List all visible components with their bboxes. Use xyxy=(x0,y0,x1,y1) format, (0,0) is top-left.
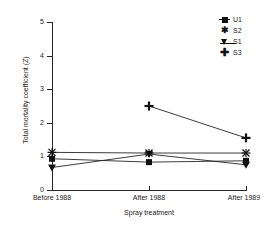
data-point-s3-1 xyxy=(145,102,154,111)
data-point-s3-2 xyxy=(242,133,251,142)
legend-label-s1: S1 xyxy=(233,38,242,46)
chart-figure: 5 4 3 2 1 0 Before 1988 After 1988 After… xyxy=(0,0,276,226)
legend-item-s3[interactable]: ✚ S3 xyxy=(219,48,242,57)
legend-label-s2: S2 xyxy=(233,27,242,35)
data-point-s2-2 xyxy=(242,149,251,157)
data-point-u1-0 xyxy=(49,156,55,162)
data-point-s1-0 xyxy=(48,164,56,171)
legend-item-s1[interactable]: S1 xyxy=(219,37,242,46)
legend-item-u1[interactable]: U1 xyxy=(219,15,242,24)
legend-label-s3: S3 xyxy=(233,49,242,57)
series-line-s3 xyxy=(149,106,246,138)
x-cross-marker-icon: ✱ xyxy=(219,26,230,35)
data-point-s2-0 xyxy=(48,148,57,156)
filled-down-triangle-marker-icon xyxy=(219,37,230,46)
plus-marker-icon: ✚ xyxy=(219,48,230,57)
chart-legend: U1 ✱ S2 S1 ✚ S3 xyxy=(219,15,242,57)
data-point-s1-2 xyxy=(242,162,250,169)
legend-label-u1: U1 xyxy=(233,16,242,24)
filled-square-marker-icon xyxy=(219,15,230,24)
legend-item-s2[interactable]: ✱ S2 xyxy=(219,26,242,35)
data-point-u1-1 xyxy=(146,159,152,165)
series-s3 xyxy=(145,102,251,143)
